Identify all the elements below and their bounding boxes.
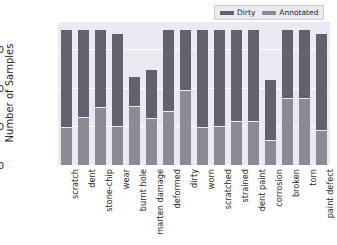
bar-column	[112, 34, 123, 165]
bar-column	[316, 34, 327, 165]
chart-legend: DirtyAnnotated	[214, 5, 324, 20]
bar-segment-divider	[129, 106, 140, 107]
bar-segment-divider	[95, 107, 106, 108]
legend-item: Annotated	[262, 8, 318, 17]
bar-segment-dirty	[180, 30, 191, 91]
y-tick-label: 0	[0, 160, 4, 171]
bar-column	[180, 30, 191, 165]
bar-segment-annotated	[197, 128, 208, 165]
bar-segment-annotated	[61, 128, 72, 165]
y-tick-label: 1000	[0, 121, 4, 132]
bar-segment-dirty	[231, 30, 242, 122]
bar-segment-dirty	[214, 30, 225, 127]
bar-segment-dirty	[282, 30, 293, 99]
legend-swatch	[262, 11, 276, 15]
bar-column	[299, 30, 310, 165]
bar-column	[163, 30, 174, 165]
bar-segment-divider	[146, 118, 157, 119]
x-tick-label: wear	[121, 169, 131, 189]
bar-segment-divider	[265, 140, 276, 141]
x-tick-label: scratched	[223, 169, 233, 209]
bar-column	[214, 30, 225, 165]
bar-segment-divider	[180, 90, 191, 91]
y-tick-label: 3000	[0, 44, 4, 55]
legend-label: Annotated	[279, 8, 318, 17]
bar-column	[95, 30, 106, 165]
bar-column	[146, 70, 157, 165]
bar-segment-divider	[112, 126, 123, 127]
bar-segment-annotated	[95, 108, 106, 165]
x-tick-label: marten damage	[155, 169, 165, 235]
bar-column	[248, 30, 259, 165]
bar-segment-annotated	[163, 112, 174, 165]
bar-segment-divider	[282, 98, 293, 99]
bar-segment-annotated	[231, 122, 242, 165]
y-axis-label: Number of Samples	[4, 44, 15, 143]
bar-segment-dirty	[61, 30, 72, 129]
bar-segment-annotated	[129, 107, 140, 165]
legend-item: Dirty	[220, 8, 255, 17]
bar-segment-divider	[316, 130, 327, 131]
bar-segment-divider	[163, 111, 174, 112]
x-tick-label: broken	[291, 169, 301, 197]
bar-segment-annotated	[78, 118, 89, 165]
x-tick-label: torn	[308, 169, 318, 186]
bar-column	[265, 80, 276, 165]
bar-segment-dirty	[299, 30, 310, 99]
bar-segment-dirty	[248, 30, 259, 122]
bar-segment-annotated	[265, 141, 276, 165]
bar-segment-dirty	[163, 30, 174, 112]
legend-label: Dirty	[237, 8, 255, 17]
x-tick-label: stone-chip	[104, 169, 114, 212]
x-tick-label: dirty	[189, 169, 199, 188]
y-tick-label: 2000	[0, 82, 4, 93]
bar-segment-annotated	[146, 119, 157, 165]
bar-segment-divider	[61, 127, 72, 128]
x-tick-label: deformed	[172, 169, 182, 209]
legend-swatch	[220, 11, 234, 15]
bar-segment-divider	[214, 126, 225, 127]
bar-segment-dirty	[316, 34, 327, 131]
bar-segment-annotated	[180, 91, 191, 165]
bar-segment-divider	[231, 121, 242, 122]
plot-area	[58, 22, 330, 165]
bar-segment-dirty	[112, 34, 123, 127]
bar-segment-divider	[248, 121, 259, 122]
x-tick-label: strained	[240, 169, 250, 203]
bar-segment-annotated	[248, 122, 259, 165]
bar-segment-annotated	[316, 131, 327, 165]
bar-segment-dirty	[129, 77, 140, 107]
bar-column	[129, 77, 140, 165]
bar-segment-annotated	[112, 127, 123, 165]
bar-column	[61, 30, 72, 165]
x-tick-label: worn	[206, 169, 216, 189]
chart-figure: Number of Samples 0100020003000 scratchd…	[0, 0, 337, 245]
bar-segment-annotated	[282, 99, 293, 165]
bar-segment-dirty	[95, 30, 106, 108]
bar-column	[231, 30, 242, 165]
bar-column	[78, 30, 89, 165]
x-tick-label: dent	[87, 169, 97, 188]
bar-segment-divider	[299, 98, 310, 99]
bar-segment-divider	[197, 127, 208, 128]
x-tick-label: corrosion	[274, 169, 284, 207]
bar-column	[282, 30, 293, 165]
x-tick-label: burnt hole	[138, 169, 148, 211]
bar-segment-dirty	[78, 30, 89, 118]
bar-segment-dirty	[265, 80, 276, 141]
bar-segment-annotated	[299, 99, 310, 165]
x-tick-label: paint defect	[325, 169, 335, 218]
x-tick-label: dent paint	[257, 169, 267, 211]
bar-column	[197, 30, 208, 165]
bar-segment-dirty	[146, 70, 157, 119]
x-tick-label: scratch	[70, 169, 80, 199]
bar-segment-annotated	[214, 127, 225, 165]
bar-segment-divider	[78, 117, 89, 118]
y-axis-label-wrapper: Number of Samples	[10, 0, 11, 187]
bar-segment-dirty	[197, 30, 208, 129]
